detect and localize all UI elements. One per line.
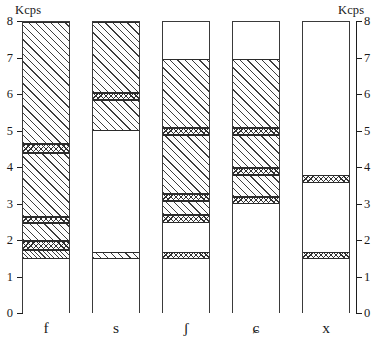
y-tick-label-left-2: 2 [1,234,13,247]
x-axis-category-label-ʃ: ʃ [162,320,210,336]
y-axis-unit-right: Kcps [338,4,364,17]
bar-ʃ [162,21,210,313]
bar-segment-ɕ-2 [233,175,279,197]
bar-s [92,21,140,313]
bar-segment-ʃ-0 [163,259,209,314]
y-tick-label-right-6: 6 [364,88,378,101]
bar-segment-ɕ-6 [233,59,279,128]
bar-segment-s-3 [93,100,139,131]
y-tick-mark-left-0 [17,313,22,314]
bar-segment-x-3 [303,175,349,182]
x-axis-category-label-x: x [302,320,350,336]
y-tick-label-right-3: 3 [364,198,378,211]
bar-ɕ [232,21,280,313]
bar-segment-ʃ-7 [163,128,209,135]
x-axis-category-label-f: f [22,320,70,336]
bar-segment-ɕ-5 [233,128,279,135]
bar-segment-x-1 [303,252,349,259]
bar-segment-f-5 [23,153,69,217]
y-tick-label-left-4: 4 [1,161,13,174]
bar-segment-x-0 [303,259,349,314]
y-tick-mark-right-4 [357,167,362,168]
y-tick-mark-right-7 [357,58,362,59]
x-axis-category-label-ɕ: ɕ [232,320,280,336]
bar-x [302,21,350,313]
bar-f [22,21,70,313]
bar-segment-ʃ-8 [163,59,209,128]
y-tick-label-right-1: 1 [364,271,378,284]
bar-segment-ɕ-0 [233,205,279,315]
y-tick-mark-right-1 [357,277,362,278]
bar-segment-ʃ-5 [163,194,209,201]
bar-segment-ʃ-3 [163,215,209,222]
bar-segment-x-2 [303,183,349,252]
y-tick-mark-right-3 [357,204,362,205]
bar-segment-f-1 [23,250,69,259]
y-tick-mark-right-5 [357,131,362,132]
bar-segment-s-0 [93,259,139,314]
bar-segment-ʃ-1 [163,252,209,259]
y-tick-label-right-0: 0 [364,307,378,320]
bar-segment-ɕ-7 [233,22,279,59]
y-tick-mark-right-0 [357,313,362,314]
y-axis-unit-left: Kcps [15,4,41,17]
y-tick-mark-right-8 [357,21,362,22]
bar-segment-s-4 [93,93,139,100]
bar-segment-f-4 [23,217,69,222]
y-tick-label-right-8: 8 [364,15,378,28]
y-tick-label-right-4: 4 [364,161,378,174]
stacked-bar-chart: Kcps Kcps 001122334455667788 fsʃɕx [0,0,378,348]
bar-segment-ɕ-3 [233,168,279,175]
y-tick-mark-right-6 [357,94,362,95]
bar-segment-s-2 [93,132,139,252]
y-tick-label-left-7: 7 [1,52,13,65]
bar-segment-f-7 [23,22,69,144]
x-axis-category-label-s: s [92,320,140,336]
bar-segment-x-4 [303,22,349,175]
y-tick-label-right-7: 7 [364,52,378,65]
y-tick-label-right-5: 5 [364,125,378,138]
y-tick-label-left-6: 6 [1,88,13,101]
y-tick-label-left-3: 3 [1,198,13,211]
bar-segment-f-6 [23,144,69,153]
y-tick-label-left-0: 0 [1,307,13,320]
bar-segment-s-5 [93,22,139,93]
y-tick-mark-right-2 [357,240,362,241]
bar-segment-ɕ-1 [233,197,279,204]
y-tick-label-left-1: 1 [1,271,13,284]
bar-segment-ʃ-6 [163,135,209,193]
bar-segment-ʃ-2 [163,223,209,252]
bar-segment-f-0 [23,259,69,314]
bar-segment-f-3 [23,223,69,241]
bar-segment-ʃ-4 [163,201,209,216]
y-tick-label-right-2: 2 [364,234,378,247]
y-tick-label-left-5: 5 [1,125,13,138]
bar-segment-f-2 [23,241,69,250]
y-tick-label-left-8: 8 [1,15,13,28]
bar-segment-s-1 [93,252,139,259]
bar-segment-ɕ-4 [233,135,279,168]
bar-segment-ʃ-9 [163,22,209,59]
